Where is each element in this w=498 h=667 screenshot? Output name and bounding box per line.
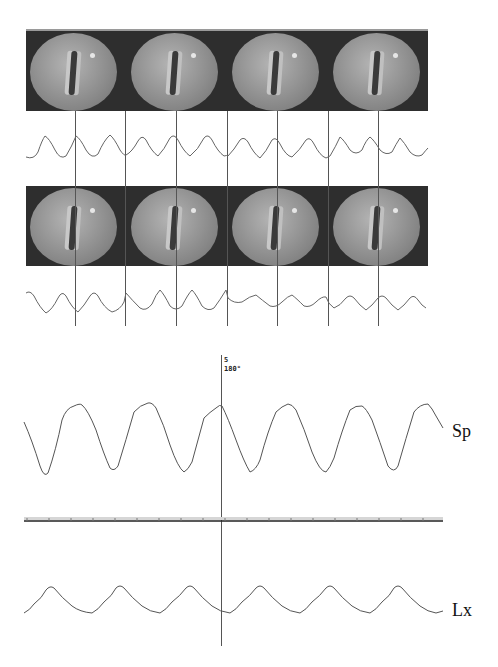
sp-label: Sp <box>452 421 471 442</box>
cursor-phase-label: 180° <box>224 365 241 374</box>
waveform-overlay <box>0 0 498 667</box>
lx-label: Lx <box>452 600 472 621</box>
sp-waveform <box>24 403 443 475</box>
cursor-value-label: 5 <box>224 356 228 365</box>
time-ruler-track <box>24 517 443 520</box>
lx-waveform <box>24 586 443 613</box>
row-2-waveform <box>26 290 426 313</box>
